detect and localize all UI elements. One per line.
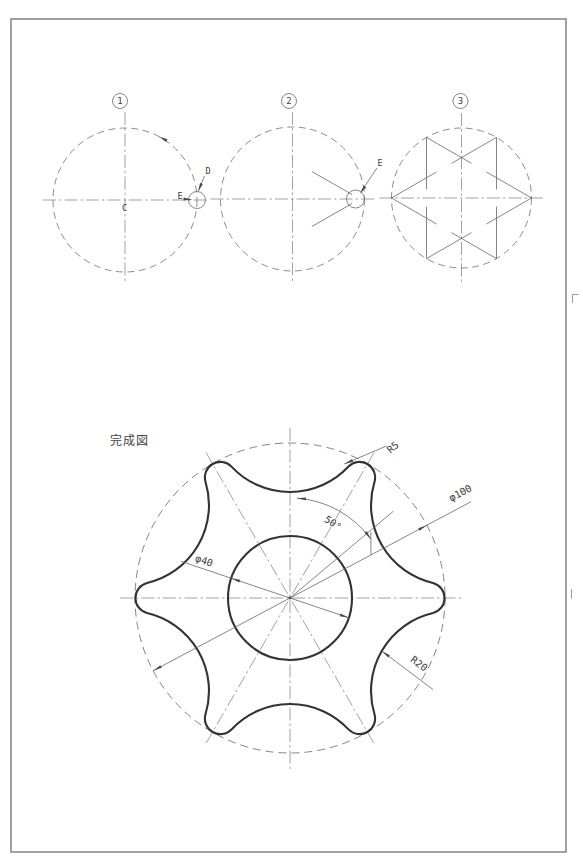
star-tangent-line xyxy=(451,137,496,163)
label-c: C xyxy=(122,203,127,213)
star-tangent-line xyxy=(392,198,437,224)
dim-arrow xyxy=(231,578,240,582)
label-e: E xyxy=(378,158,383,168)
completed-view-title: 完成図 xyxy=(110,433,149,448)
leader-e-arrow xyxy=(183,198,192,201)
leader-arrow xyxy=(382,651,390,658)
tangent-chord-lower xyxy=(312,204,352,227)
construction-step-2: E xyxy=(211,112,383,283)
label-d: D xyxy=(206,166,211,176)
dim-label-outer-diameter: φ100 xyxy=(447,482,473,503)
leader-d-arrow xyxy=(198,183,203,192)
page-edge-marks xyxy=(572,295,579,599)
step-number: 3 xyxy=(458,96,463,106)
sheet-border xyxy=(11,19,566,852)
construction-step-1: DCE xyxy=(43,112,211,283)
step-number-badges: 123 xyxy=(113,94,469,109)
step-number: 2 xyxy=(286,96,291,106)
drawing-sheet: DCE E 123 完成図 φ100φ4050°R5R20 xyxy=(0,0,583,859)
star-tangent-line xyxy=(427,137,472,163)
star-tangent-line xyxy=(451,233,496,259)
dim-arrow xyxy=(418,525,427,531)
dim-label-tip-radius: R5 xyxy=(385,439,401,455)
star-tangent-line xyxy=(486,198,531,224)
arc-direction-arrow xyxy=(159,136,168,142)
star-tangent-line xyxy=(486,172,531,198)
dim-arrow xyxy=(153,665,162,671)
construction-step-3 xyxy=(380,113,544,283)
dim-label-valley-radius: R20 xyxy=(409,654,430,674)
tangent-chord-upper xyxy=(312,172,352,195)
step-number: 1 xyxy=(117,96,122,106)
label-e: E xyxy=(178,191,183,201)
edge-mark-top xyxy=(573,295,579,304)
dim-arrow xyxy=(340,613,349,617)
star-tangent-line xyxy=(392,172,437,198)
star-tangent-line xyxy=(427,233,472,259)
dim-label-lobe-angle: 50° xyxy=(322,514,343,533)
completed-view: φ100φ4050°R5R20 xyxy=(120,428,474,770)
dim-arrow xyxy=(297,497,306,500)
